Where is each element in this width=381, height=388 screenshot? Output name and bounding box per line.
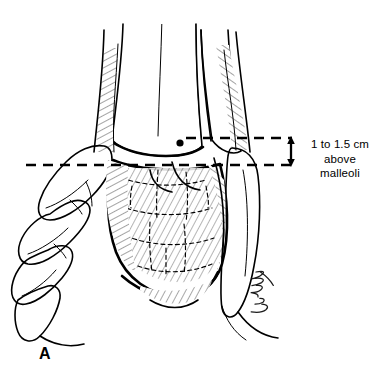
callout-line-3: malleoli [300,166,380,181]
landmark-dot-icon [176,139,183,146]
measurement-callout-text: 1 to 1.5 cm above malleoli [300,137,380,181]
figure-panel-a: 1 to 1.5 cm above malleoli A [0,0,381,388]
ankle-illustration-svg [0,0,381,388]
callout-line-2: above [300,152,380,167]
panel-label: A [39,345,51,363]
callout-line-1: 1 to 1.5 cm [300,137,380,152]
